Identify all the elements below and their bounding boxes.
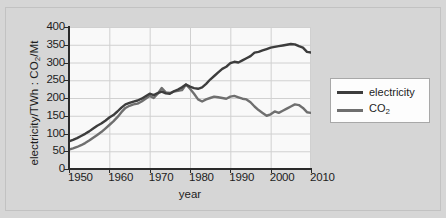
- y-tick-label: 150: [31, 110, 65, 121]
- y-tick-mark: [64, 63, 69, 64]
- legend-label-co2: CO2: [369, 102, 390, 118]
- legend-label-electricity: electricity: [369, 86, 415, 98]
- y-tick-mark: [64, 134, 69, 135]
- x-tick-mark: [271, 168, 272, 173]
- y-tick-mark: [64, 27, 69, 28]
- x-axis-label: year: [69, 188, 311, 200]
- x-tick-label: 2000: [270, 171, 295, 184]
- y-tick-mark: [64, 116, 69, 117]
- y-tick-mark: [64, 45, 69, 46]
- legend-label-co2-subscript: 2: [386, 107, 390, 116]
- y-tick-mark: [64, 80, 69, 81]
- y-tick-label: 300: [31, 57, 65, 68]
- plot-area: [69, 27, 311, 169]
- x-tick-label: 1990: [229, 171, 254, 184]
- legend-swatch-electricity: [337, 91, 363, 94]
- x-tick-label: 2010: [310, 171, 335, 184]
- y-tick-label: 200: [31, 92, 65, 103]
- legend-label-co2-prefix: CO: [369, 102, 386, 114]
- x-tick-mark: [150, 168, 151, 173]
- x-tick-mark: [109, 168, 110, 173]
- x-tick-label: 1960: [108, 171, 133, 184]
- legend-swatch-co2: [337, 109, 363, 112]
- x-tick-mark: [311, 168, 312, 173]
- x-tick-mark: [230, 168, 231, 173]
- y-tick-label: 250: [31, 74, 65, 85]
- y-tick-mark: [64, 151, 69, 152]
- y-tick-mark: [64, 98, 69, 99]
- y-tick-label: 100: [31, 128, 65, 139]
- x-tick-mark: [190, 168, 191, 173]
- y-tick-label: 350: [31, 39, 65, 50]
- x-tick-label: 1970: [149, 171, 174, 184]
- x-tick-mark: [69, 168, 70, 173]
- x-tick-label: 1950: [68, 171, 93, 184]
- x-tick-label: 1980: [189, 171, 214, 184]
- legend: electricity CO2: [330, 78, 430, 123]
- series-lines: [69, 27, 311, 169]
- legend-item-electricity: electricity: [337, 84, 415, 100]
- chart-figure: electricity/TWh : CO2/Mt 050100150200250…: [0, 0, 446, 218]
- y-tick-label: 400: [31, 21, 65, 32]
- x-axis-ticks: 1950196019701980199020002010: [0, 171, 446, 189]
- legend-item-co2: CO2: [337, 102, 390, 118]
- y-tick-label: 50: [31, 145, 65, 156]
